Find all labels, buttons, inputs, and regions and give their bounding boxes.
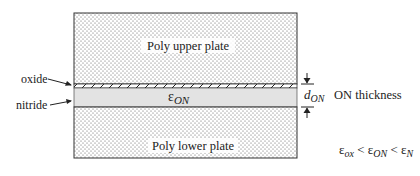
thickness-symbol: dON — [304, 87, 326, 104]
capacitor-diagram: Poly upper plate Poly lower plate εON ox… — [0, 0, 420, 176]
upper-plate-label: Poly upper plate — [147, 39, 229, 53]
lower-plate-label: Poly lower plate — [152, 139, 234, 153]
nitride-label: nitride — [16, 98, 47, 112]
thickness-label: ON thickness — [334, 88, 402, 102]
oxide-label: oxide — [21, 72, 48, 86]
permittivity-relation: εox < εON < εN — [339, 142, 414, 159]
oxide-layer — [74, 84, 297, 88]
